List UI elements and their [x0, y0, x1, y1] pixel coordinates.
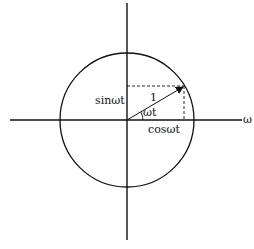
angle-label: ωt: [143, 106, 157, 119]
phasor-diagram: sinωt 1 ωt cosωt ω: [0, 0, 254, 249]
magnitude-label: 1: [150, 91, 157, 104]
x-axis-label: ω: [243, 113, 252, 126]
cos-label: cosωt: [148, 123, 180, 136]
diagram-svg: sinωt 1 ωt cosωt ω: [0, 0, 254, 249]
sin-label: sinωt: [95, 94, 125, 107]
